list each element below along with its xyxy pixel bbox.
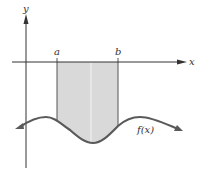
x-axis-arrow-icon (177, 60, 187, 65)
y-axis-arrow-icon (24, 14, 29, 24)
x-axis-label: x (189, 56, 195, 67)
diagram-canvas: y x a b f(x) (0, 0, 207, 175)
area-diagram: y x a b f(x) (0, 0, 207, 175)
b-label: b (115, 46, 121, 57)
shaded-region (57, 62, 118, 143)
function-label: f(x) (136, 124, 154, 135)
curve-left-arrow-icon (15, 123, 24, 129)
y-axis-label: y (22, 3, 29, 14)
a-label: a (54, 46, 60, 57)
